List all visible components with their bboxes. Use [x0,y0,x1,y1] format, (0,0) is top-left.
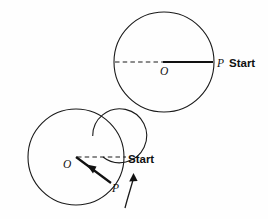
bottom-start-label: Start [128,153,154,165]
bottom-diagram-group: O P Start [28,109,154,208]
rotation-arrow-shaft [125,180,133,208]
bottom-center-label-O: O [63,158,72,170]
bottom-point-label-P: P [111,182,119,194]
top-center-label-O: O [160,65,169,77]
top-start-label: Start [229,57,255,69]
rotation-arrow-head [129,173,137,182]
top-point-label-P: P [216,57,224,69]
physics-diagram: O P Start O P Start [0,0,268,219]
top-diagram-group: O P Start [114,12,255,112]
figure-root: O P Start O P Start [0,0,268,219]
